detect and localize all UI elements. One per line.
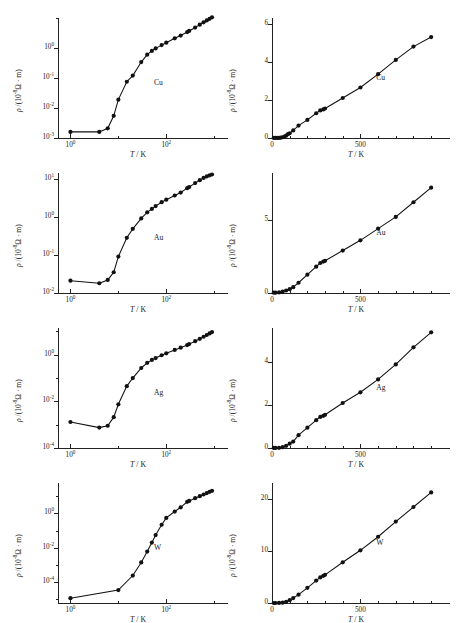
data-point	[187, 29, 191, 33]
data-point	[296, 281, 300, 285]
data-point	[193, 496, 197, 500]
data-point	[277, 290, 281, 294]
data-point	[112, 114, 116, 118]
data-point	[291, 596, 295, 600]
data-point	[291, 439, 295, 443]
data-point	[164, 351, 168, 355]
data-point	[145, 361, 149, 365]
data-point	[150, 49, 154, 53]
data-point	[314, 265, 318, 269]
data-point	[429, 186, 433, 190]
figure-row-cu: 10010-110-210-3100102ρ /(10-8Ω · m)T / K…	[0, 0, 459, 155]
series-label: W	[376, 538, 383, 547]
plot-curve	[230, 310, 459, 465]
data-point	[291, 285, 295, 289]
plot-curve	[0, 155, 229, 310]
data-point	[210, 330, 214, 334]
series-label: Au	[376, 228, 385, 237]
data-point	[154, 533, 158, 537]
data-point	[116, 402, 120, 406]
data-point	[429, 330, 433, 334]
plot-curve	[230, 155, 459, 310]
data-point	[314, 111, 318, 115]
data-point	[150, 207, 154, 211]
data-point	[97, 130, 101, 134]
data-point	[112, 270, 116, 274]
data-point	[429, 490, 433, 494]
data-point	[68, 420, 72, 424]
figure-row-au: 10110010-110-2100102ρ /(10-8Ω · m)T / KA…	[0, 155, 459, 310]
series-label: Ag	[154, 388, 163, 397]
data-point	[305, 426, 309, 430]
data-point	[173, 348, 177, 352]
panel-ag-log: 10010-210-4100102ρ /(10-8Ω · m)T / KAg	[0, 310, 229, 465]
data-point	[179, 190, 183, 194]
data-point	[164, 41, 168, 45]
figure-row-ag: 10010-210-4100102ρ /(10-8Ω · m)T / KAg 0…	[0, 310, 459, 465]
data-point	[112, 415, 116, 419]
data-point	[145, 53, 149, 57]
data-point	[68, 279, 72, 283]
data-point	[198, 494, 202, 498]
data-point	[179, 33, 183, 37]
data-point	[116, 98, 120, 102]
data-point	[106, 126, 110, 130]
data-point	[193, 339, 197, 343]
resistivity-temperature-figure: 10010-110-210-3100102ρ /(10-8Ω · m)T / K…	[0, 0, 459, 623]
data-point	[210, 489, 214, 493]
data-point	[411, 44, 415, 48]
data-point	[116, 255, 120, 259]
data-point	[291, 128, 295, 132]
data-point	[358, 85, 362, 89]
data-point	[296, 124, 300, 128]
figure-row-w: 10010-210-4100102ρ /(10-8Ω · m)T / KW 01…	[0, 465, 459, 620]
series-label: Ag	[376, 383, 385, 392]
data-point	[394, 58, 398, 62]
data-point	[131, 376, 135, 380]
data-point	[305, 118, 309, 122]
series-label: Cu	[154, 78, 163, 87]
data-point	[154, 46, 158, 50]
data-point	[305, 273, 309, 277]
panel-au-linear: 050500ρ /(10-8Ω · m)T / KAu	[230, 155, 459, 310]
data-point	[376, 377, 380, 381]
data-point	[411, 505, 415, 509]
panel-au-log: 10110010-110-2100102ρ /(10-8Ω · m)T / KA…	[0, 155, 229, 310]
plot-curve	[0, 310, 229, 465]
data-point	[411, 345, 415, 349]
data-point	[68, 130, 72, 134]
data-point	[394, 362, 398, 366]
data-point	[296, 593, 300, 597]
data-point	[288, 287, 292, 291]
data-point	[125, 384, 129, 388]
data-point	[160, 353, 164, 357]
data-point	[145, 549, 149, 553]
data-point	[323, 573, 327, 577]
data-point	[116, 588, 120, 592]
data-point	[139, 216, 143, 220]
series-label: W	[154, 543, 161, 552]
data-point	[296, 433, 300, 437]
panel-cu-linear: 02460500ρ /(10-8Ω · m)T / KCu	[230, 0, 459, 155]
data-point	[173, 193, 177, 197]
data-point	[187, 499, 191, 503]
data-point	[139, 560, 143, 564]
data-point	[323, 413, 327, 417]
data-point	[394, 215, 398, 219]
data-point	[198, 337, 202, 341]
data-point	[358, 548, 362, 552]
data-point	[323, 259, 327, 263]
panel-cu-log: 10010-110-210-3100102ρ /(10-8Ω · m)T / K…	[0, 0, 229, 155]
data-point	[281, 601, 285, 605]
plot-curve	[230, 465, 459, 620]
plot-curve	[230, 0, 459, 155]
data-point	[429, 35, 433, 39]
data-point	[210, 172, 214, 176]
data-point	[210, 15, 214, 19]
data-point	[288, 131, 292, 135]
data-point	[314, 578, 318, 582]
panel-w-log: 10010-210-4100102ρ /(10-8Ω · m)T / KW	[0, 465, 229, 620]
data-point	[198, 178, 202, 182]
data-point	[179, 505, 183, 509]
data-point	[97, 281, 101, 285]
